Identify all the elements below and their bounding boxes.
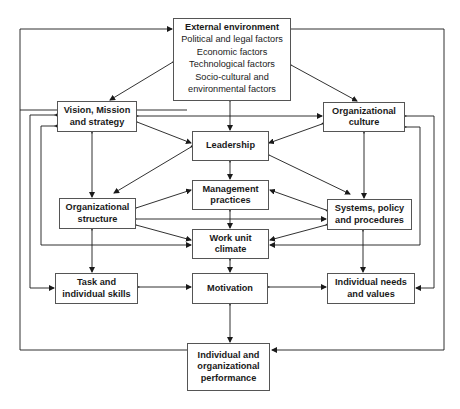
external-factor-technological: Technological factors (189, 58, 275, 70)
individual-organizational-performance-box: Individual and organizational performanc… (187, 343, 270, 391)
leadership-box: Leadership (192, 131, 269, 161)
node-label: Management (202, 184, 258, 196)
external-factor-environmental: environmental factors (188, 83, 276, 95)
node-label: individual skills (62, 289, 130, 301)
node-label: climate (215, 244, 247, 256)
vision-mission-strategy-box: Vision, Mission and strategy (57, 101, 137, 132)
node-label: Individual needs (335, 277, 407, 289)
node-label: Systems, policy (335, 203, 404, 215)
motivation-box: Motivation (192, 273, 268, 304)
node-label: culture (349, 117, 380, 129)
external-factor-sociocultural: Socio-cultural and (195, 71, 269, 83)
burke-litwin-diagram: External environment Political and legal… (0, 0, 460, 409)
node-label: and values (347, 289, 395, 301)
node-label: organizational (197, 361, 259, 373)
node-label: Task and (77, 277, 116, 289)
node-label: Individual and (198, 350, 260, 362)
node-label: Organizational (66, 202, 130, 214)
node-label: practices (210, 195, 250, 207)
node-label: Leadership (206, 140, 255, 152)
node-label: structure (78, 214, 118, 226)
management-practices-box: Management practices (192, 180, 269, 210)
work-unit-climate-box: Work unit climate (192, 229, 269, 259)
organizational-culture-box: Organizational culture (323, 102, 405, 132)
node-label: Vision, Mission (64, 105, 131, 117)
node-label: and procedures (335, 215, 404, 227)
external-environment-title: External environment (185, 21, 279, 33)
node-label: Organizational (332, 106, 396, 118)
task-individual-skills-box: Task and individual skills (55, 273, 138, 304)
node-label: Work unit (209, 233, 251, 245)
individual-needs-values-box: Individual needs and values (327, 273, 415, 304)
node-label: performance (201, 373, 257, 385)
node-label: and strategy (70, 117, 125, 129)
external-factor-economic: Economic factors (197, 46, 267, 58)
organizational-structure-box: Organizational structure (59, 198, 136, 229)
external-environment-box: External environment Political and legal… (173, 18, 291, 101)
systems-policy-procedures-box: Systems, policy and procedures (327, 199, 412, 230)
external-factor-political: Political and legal factors (181, 33, 283, 45)
node-label: Motivation (207, 283, 253, 295)
